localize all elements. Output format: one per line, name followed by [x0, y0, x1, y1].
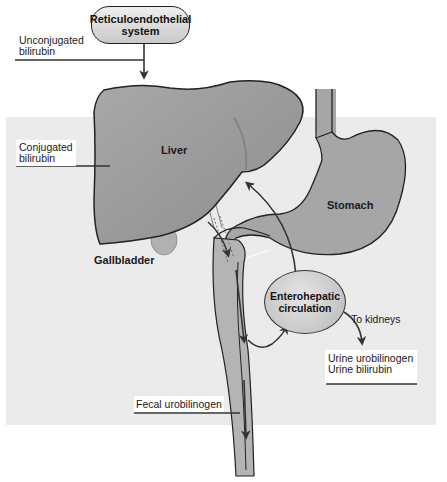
conjugated-label: Conjugated bilirubin — [19, 142, 73, 164]
urine-label: Urine urobilinogen Urine bilirubin — [328, 353, 413, 375]
gallbladder-label: Gallbladder — [94, 255, 155, 267]
reticuloendothelial-node: Reticuloendothelial system — [91, 6, 190, 44]
urine-line2: Urine bilirubin — [328, 364, 413, 375]
diagram-canvas — [0, 0, 447, 482]
fecal-label: Fecal urobilinogen — [136, 399, 222, 410]
stomach-label: Stomach — [327, 200, 373, 212]
conjugated-line2: bilirubin — [19, 153, 73, 164]
enterohepatic-line1: Enterohepatic — [270, 290, 340, 302]
unconjugated-line2: bilirubin — [19, 46, 84, 57]
to-kidneys-label: To kidneys — [351, 314, 401, 325]
enterohepatic-line2: circulation — [270, 302, 340, 314]
liver-label: Liver — [161, 145, 187, 157]
reticuloendothelial-line1: Reticuloendothelial — [90, 13, 191, 25]
enterohepatic-node: Enterohepatic circulation — [264, 270, 346, 334]
unconjugated-label: Unconjugated bilirubin — [19, 35, 84, 57]
reticuloendothelial-line2: system — [90, 25, 191, 37]
